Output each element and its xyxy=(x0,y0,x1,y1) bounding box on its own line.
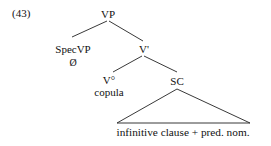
sc-content: infinitive clause + pred. nom. xyxy=(117,127,250,138)
branch-vp-specvp xyxy=(72,21,107,37)
node-vbar: V' xyxy=(139,43,149,55)
syntax-tree: (43) VP SpecVP Ø V' V° copula SC infinit… xyxy=(0,0,271,146)
branch-vp-vbar xyxy=(109,21,143,41)
node-vhead: V° xyxy=(103,74,115,86)
branch-vbar-vhead xyxy=(113,56,142,72)
vhead-copula: copula xyxy=(94,86,123,98)
branch-vbar-sc xyxy=(144,56,177,72)
sc-triangle xyxy=(117,89,250,123)
node-sc: SC xyxy=(170,75,183,87)
node-specvp: SpecVP xyxy=(55,43,90,55)
node-vp: VP xyxy=(101,8,115,20)
specvp-empty: Ø xyxy=(69,57,76,68)
example-number: (43) xyxy=(12,7,31,20)
